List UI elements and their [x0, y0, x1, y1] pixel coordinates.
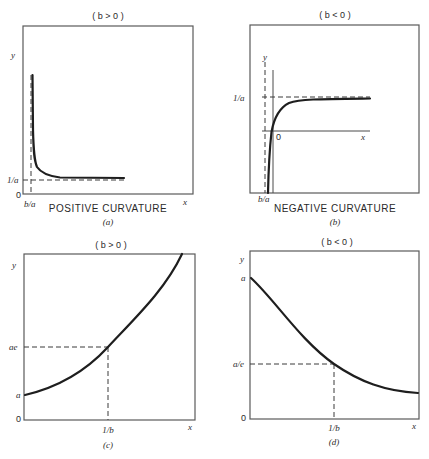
panel-a-x-marker-label: b/a	[24, 199, 36, 209]
panel-b-x-marker-label: b/a	[258, 194, 270, 204]
panel-b-condition: ( b < 0 )	[319, 10, 350, 20]
panel-c-y-label: y	[11, 260, 16, 270]
panel-b-y-label: y	[262, 52, 267, 62]
panel-c-sublabel: (c)	[103, 440, 113, 450]
panel-a-origin-label: 0	[16, 190, 21, 200]
panel-a-frame	[23, 26, 193, 194]
panel-d-y-label: y	[239, 254, 244, 264]
panel-c-condition: ( b > 0 )	[95, 240, 126, 250]
panel-d-origin-label: 0	[241, 413, 246, 423]
panel-c-x-label: x	[187, 422, 192, 432]
panel-c-frame	[24, 254, 195, 420]
panel-a-y-label: y	[10, 50, 15, 60]
panel-d-y-intercept-label: a	[241, 273, 246, 283]
panel-d-sublabel: (d)	[329, 437, 340, 447]
panel-b-y-marker-label: 1/a	[233, 93, 245, 103]
panel-b-x-label: x	[360, 132, 365, 142]
panel-c-x-marker-label: 1/b	[102, 425, 114, 435]
panel-b-caption: NEGATIVE CURVATURE	[274, 203, 396, 214]
panel-c-y-marker-label: ae	[9, 342, 18, 352]
panel-a-x-label: x	[182, 197, 187, 207]
panel-b-curve	[268, 99, 370, 194]
panel-b-origin-label: 0	[276, 132, 281, 142]
panel-c-y-intercept-label: a	[16, 390, 21, 400]
panel-a-condition: ( b > 0 )	[92, 11, 123, 21]
panel-c-curve	[25, 254, 182, 395]
panel-c: ( b > 0 ) y 0 a ae 1/b x (c)	[9, 240, 195, 450]
panel-b: ( b < 0 ) y 0 x 1/a b/a NEGATIVE CURVATU…	[233, 10, 419, 227]
panel-d: ( b < 0 ) y 0 a a/e 1/b x (d)	[233, 237, 419, 447]
panel-d-condition: ( b < 0 )	[321, 237, 352, 247]
panel-a-sublabel: (a)	[103, 217, 114, 227]
panel-a-y-marker-label: 1/a	[7, 175, 19, 185]
panel-d-x-label: x	[411, 421, 416, 431]
panel-d-frame	[250, 251, 419, 419]
panel-c-origin-label: 0	[16, 414, 21, 424]
panel-d-x-marker-label: 1/b	[328, 423, 340, 433]
panel-a-curve	[33, 75, 125, 178]
panel-a: ( b > 0 ) y 0 1/a b/a x POSITIVE CURVATU…	[7, 11, 193, 227]
panel-a-caption: POSITIVE CURVATURE	[49, 203, 167, 214]
panel-b-frame	[250, 25, 419, 193]
panel-d-y-marker-label: a/e	[233, 359, 244, 369]
panel-b-sublabel: (b)	[330, 217, 341, 227]
figure-canvas: ( b > 0 ) y 0 1/a b/a x POSITIVE CURVATU…	[0, 0, 429, 459]
